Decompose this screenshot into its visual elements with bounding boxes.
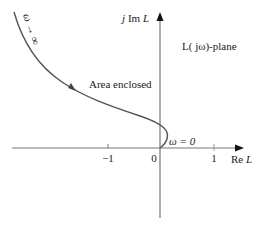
area-enclosed-label: Area enclosed [89,78,152,90]
tick-label-zero: 0 [151,152,157,164]
omega-infinity-label: ω → ∞ [21,12,42,46]
nyquist-diagram: j Im L Re L L( jω)-plane Area enclosed ω… [0,0,266,237]
curve-direction-arrow-icon [68,83,76,91]
omega-zero-label: ω = 0 [169,135,196,147]
imag-axis-label: j Im L [120,12,149,24]
plane-label: L( jω)-plane [182,40,237,53]
real-axis-label: Re L [231,153,252,165]
tick-label-one: 1 [211,152,217,164]
real-axis-arrow-icon [235,145,244,152]
tick-label-minus-one: −1 [102,152,114,164]
imag-axis-arrow-icon [157,12,164,21]
